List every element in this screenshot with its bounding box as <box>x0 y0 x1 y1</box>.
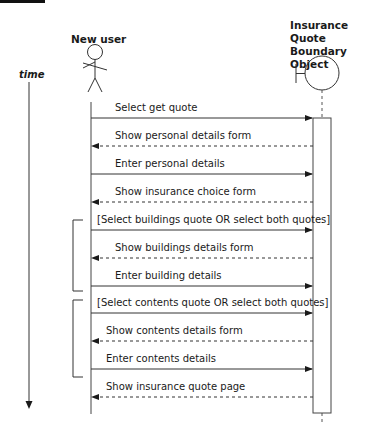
message-label: Show insurance quote page <box>106 381 245 393</box>
contents-quote-fragment <box>73 300 83 377</box>
message-label: [Select contents quote OR select both qu… <box>97 297 328 309</box>
time-arrow <box>26 82 33 409</box>
activation-box <box>313 118 331 413</box>
message-label: Select get quote <box>115 102 198 114</box>
message-label: [Select buildings quote OR select both q… <box>97 214 330 226</box>
message-label: Show contents details form <box>106 325 243 337</box>
message-label: Show insurance choice form <box>115 186 256 198</box>
message-label: Show personal details form <box>115 130 251 142</box>
message-label: Enter contents details <box>106 353 216 365</box>
boundary-object-icon <box>296 56 339 90</box>
message-label: Show buildings details form <box>115 242 253 254</box>
message-label: Enter building details <box>115 270 222 282</box>
actor-stick-figure-icon <box>83 45 107 93</box>
message-label: Enter personal details <box>115 158 225 170</box>
buildings-quote-fragment <box>73 220 83 291</box>
time-arrow-head <box>26 401 33 409</box>
